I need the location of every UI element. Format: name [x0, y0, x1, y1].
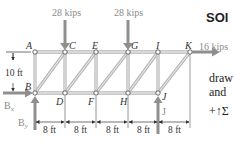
load-label-k: 16 kips: [199, 41, 228, 52]
joint-c: [63, 50, 67, 54]
node-label-j: J: [162, 91, 167, 102]
side-text-line3: +↑Σ: [209, 104, 229, 118]
joint-a: [33, 50, 37, 54]
node-label-e: E: [91, 40, 98, 51]
joint-g: [126, 50, 130, 54]
joint-d: [63, 91, 67, 95]
joint-f: [94, 91, 98, 95]
node-label-c: C: [69, 40, 76, 51]
side-text-line2: and: [209, 85, 226, 99]
reaction-label-j: J: [162, 106, 166, 117]
height-dim-label: 10 ft: [5, 68, 23, 78]
reaction-label-by: By: [18, 117, 29, 130]
span-label-3: 8 ft: [106, 125, 119, 135]
joint-b: [33, 91, 37, 95]
node-label-g: G: [131, 40, 138, 51]
node-label-i: I: [155, 40, 160, 51]
span-label-2: 8 ft: [74, 125, 87, 135]
side-text-line1: draw: [209, 71, 233, 85]
span-label-5: 8 ft: [168, 125, 181, 135]
node-label-a: A: [25, 40, 33, 51]
truss-diagram: 28 kips 28 kips 16 kips A C E G I K B D …: [0, 0, 234, 145]
node-label-d: D: [55, 96, 64, 107]
node-label-k: K: [184, 40, 193, 51]
reaction-label-bx: Bx: [4, 100, 15, 113]
node-label-b: B: [25, 81, 31, 92]
dimension-extension-lines: [65, 96, 128, 128]
node-label-f: F: [87, 96, 95, 107]
load-label-c: 28 kips: [52, 7, 81, 18]
span-label-4: 8 ft: [137, 125, 150, 135]
node-label-h: H: [119, 96, 128, 107]
joint-h: [126, 91, 130, 95]
load-label-g: 28 kips: [114, 7, 143, 18]
span-label-1: 8 ft: [43, 125, 56, 135]
solution-heading: SOl: [206, 10, 228, 25]
joint-j: [156, 91, 160, 95]
